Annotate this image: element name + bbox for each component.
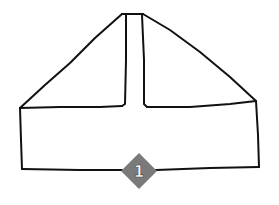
center-strip-left xyxy=(122,15,126,106)
right-fold-line xyxy=(147,101,256,107)
right-wing-edge xyxy=(143,14,256,101)
band-left-edge xyxy=(20,108,22,169)
step-badge: 1 xyxy=(121,153,157,189)
left-fold-line xyxy=(20,106,122,108)
paper-outline xyxy=(20,14,259,170)
folding-diagram: 1 xyxy=(0,0,279,205)
center-strip-right xyxy=(142,15,147,107)
step-number: 1 xyxy=(134,163,144,181)
band-bottom-edge-right xyxy=(156,167,259,170)
left-wing-edge xyxy=(20,14,122,108)
band-right-edge xyxy=(256,101,259,167)
band-bottom-edge-left xyxy=(22,169,122,170)
